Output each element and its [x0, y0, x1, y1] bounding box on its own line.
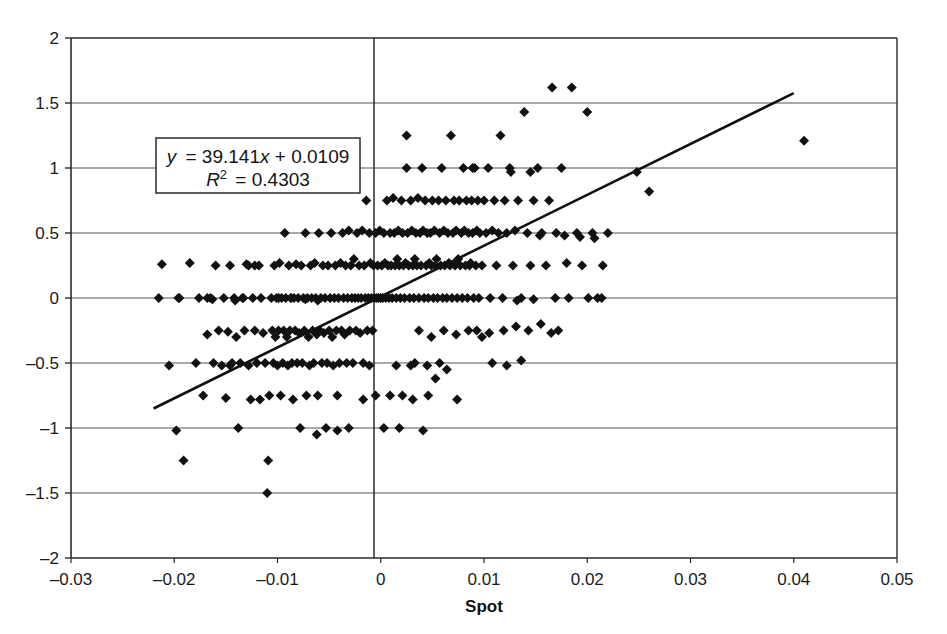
y-tick-label: 1 — [50, 159, 59, 178]
y-tick-label: 1.5 — [35, 94, 59, 113]
y-tick-label: –1.5 — [26, 484, 59, 503]
x-tick-label: –0.01 — [256, 570, 299, 589]
equation-line-1: y = 39.141x + 0.0109 — [165, 146, 350, 167]
y-tick-label: –1 — [40, 419, 59, 438]
equation-y-symbol: y — [165, 146, 178, 167]
y-tick-label: –0.5 — [26, 354, 59, 373]
y-tick-label: –2 — [40, 549, 59, 568]
equation-r-symbol: R — [206, 169, 220, 190]
y-tick-label: 0 — [50, 289, 59, 308]
equation-superscript-2: 2 — [220, 167, 227, 182]
y-tick-label: 2 — [50, 29, 59, 48]
x-tick-label: 0 — [376, 570, 385, 589]
x-tick-label: 0.03 — [674, 570, 707, 589]
scatter-chart: y = 39.141x + 0.0109 R2 = 0.4303 –0.03–0… — [0, 0, 947, 634]
x-tick-label: –0.03 — [50, 570, 93, 589]
chart-background — [0, 0, 947, 634]
x-axis-tick-labels: –0.03–0.02–0.0100.010.020.030.040.05 — [50, 570, 914, 589]
chart-canvas: y = 39.141x + 0.0109 R2 = 0.4303 –0.03–0… — [0, 0, 947, 634]
x-tick-label: 0.04 — [777, 570, 810, 589]
equation-annotation: y = 39.141x + 0.0109 R2 = 0.4303 — [156, 138, 360, 193]
y-tick-label: 0.5 — [35, 224, 59, 243]
x-tick-label: 0.05 — [880, 570, 913, 589]
x-tick-label: 0.02 — [571, 570, 604, 589]
x-tick-label: –0.02 — [153, 570, 196, 589]
x-tick-label: 0.01 — [467, 570, 500, 589]
x-axis-title: Spot — [465, 597, 503, 616]
